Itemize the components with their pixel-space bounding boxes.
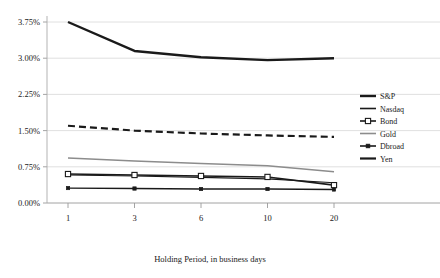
- y-axis-tick-label: 3.00%: [18, 53, 40, 63]
- series-marker: [265, 174, 270, 179]
- legend-label: Bond: [380, 117, 397, 126]
- series-marker: [199, 187, 202, 190]
- series-marker: [132, 172, 137, 177]
- series-line-yen: [68, 126, 334, 137]
- series-marker: [331, 183, 336, 188]
- legend-item-nasdaq[interactable]: Nasdaq: [360, 105, 404, 114]
- data-series: [65, 22, 336, 191]
- series-marker: [198, 173, 203, 178]
- legend-item-yen[interactable]: Yen: [360, 155, 393, 164]
- series-marker: [332, 188, 335, 191]
- series-line-gold: [68, 158, 334, 172]
- series-line-s-p: [68, 22, 334, 60]
- y-axis-tick-label: 3.75%: [18, 17, 40, 27]
- x-axis-tick-label: 6: [199, 213, 203, 223]
- y-axis-tick-label: 0.00%: [18, 198, 40, 208]
- legend-label: S&P: [380, 92, 396, 101]
- legend-marker-solid-square: [366, 144, 370, 148]
- x-axis-tick-labels: 1361020: [66, 213, 338, 223]
- y-axis-tick-label: 0.75%: [18, 162, 40, 172]
- y-axis-tick-label: 2.25%: [18, 89, 40, 99]
- series-marker: [65, 171, 70, 176]
- legend-label: Gold: [380, 130, 396, 139]
- x-axis-tick-label: 20: [330, 213, 339, 223]
- y-axis-tick-label: 1.50%: [18, 126, 40, 136]
- series-marker: [266, 187, 269, 190]
- legend-item-dbroad[interactable]: Dbroad: [360, 142, 404, 151]
- series-marker: [133, 187, 136, 190]
- legend-item-s-p[interactable]: S&P: [360, 92, 396, 101]
- legend-marker-open-square: [365, 118, 370, 123]
- x-axis-tick-label: 10: [263, 213, 272, 223]
- legend-item-bond[interactable]: Bond: [360, 117, 397, 126]
- x-axis-title: Holding Period, in business days: [154, 254, 266, 264]
- line-chart: 0.00%0.75%1.50%2.25%3.00%3.75% 1361020 S…: [0, 0, 440, 278]
- chart-container: 0.00%0.75%1.50%2.25%3.00%3.75% 1361020 S…: [0, 0, 440, 278]
- y-axis-tick-labels: 0.00%0.75%1.50%2.25%3.00%3.75%: [18, 17, 40, 208]
- legend-label: Yen: [380, 155, 393, 164]
- x-axis-tick-label: 3: [132, 213, 136, 223]
- series-marker: [66, 186, 69, 189]
- x-axis-tick-label: 1: [66, 213, 70, 223]
- legend-label: Nasdaq: [380, 105, 404, 114]
- chart-legend: S&PNasdaqBondGoldDbroadYen: [360, 92, 404, 164]
- legend-label: Dbroad: [380, 142, 404, 151]
